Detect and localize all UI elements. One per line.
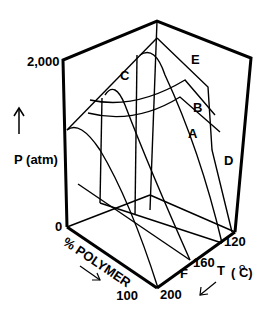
vertical-line-2 — [135, 55, 137, 215]
p-tick-0: 0 — [55, 219, 62, 234]
composition-tick-100: 100 — [116, 288, 138, 303]
vertical-line-1 — [100, 98, 102, 203]
composition-axis-label: % POLYMER — [60, 234, 134, 291]
degree-symbol: O — [239, 263, 245, 272]
t-tick-200: 200 — [160, 287, 182, 302]
label-E: E — [191, 52, 200, 67]
cloud-curve-2 — [105, 89, 190, 260]
pressure-axis-label: P (atm) — [14, 152, 58, 167]
label-B: B — [193, 100, 202, 115]
t-tick-120: 120 — [224, 234, 246, 249]
label-D: D — [224, 153, 233, 168]
temperature-axis-label-T: T — [217, 263, 225, 278]
label-A: A — [188, 126, 198, 141]
down-left-arrow-icon — [200, 282, 216, 295]
p-tick-2000: 2,000 — [27, 54, 60, 69]
label-C: C — [120, 68, 130, 83]
t-tick-160: 160 — [193, 255, 215, 270]
label-F: F — [180, 266, 188, 281]
floor-line-1 — [67, 195, 150, 227]
up-arrow-icon — [14, 108, 24, 134]
floor-line-4 — [150, 195, 235, 232]
frame-left-edge — [63, 21, 251, 232]
floor-line-2 — [100, 203, 222, 243]
phase-diagram: 2,000 0 100 200 160 120 P (atm) % POLYME… — [0, 0, 272, 325]
